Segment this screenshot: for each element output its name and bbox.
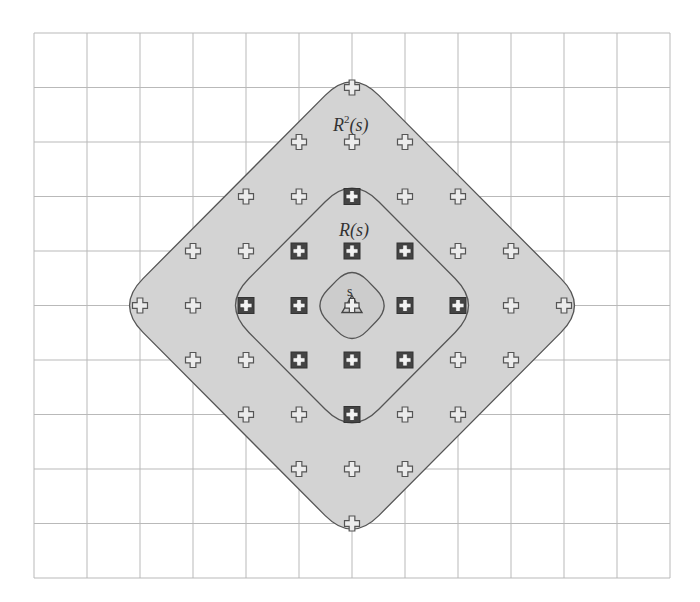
boxed-cross-marker-icon <box>291 352 307 368</box>
neighborhood-diagram: R2(s) R(s) s <box>0 0 700 602</box>
boxed-cross-marker-icon <box>344 352 360 368</box>
boxed-cross-marker-icon <box>291 243 307 259</box>
points <box>133 80 572 531</box>
boxed-cross-marker-icon <box>397 243 413 259</box>
boxed-cross-marker-icon <box>344 189 360 205</box>
label-s: s <box>347 284 352 299</box>
label-r2: R2(s) <box>332 113 369 136</box>
boxed-cross-marker-icon <box>397 352 413 368</box>
boxed-cross-marker-icon <box>344 243 360 259</box>
boxed-cross-marker-icon <box>344 407 360 423</box>
boxed-cross-marker-icon <box>397 298 413 314</box>
boxed-cross-marker-icon <box>291 298 307 314</box>
label-r1: R(s) <box>338 220 369 241</box>
boxed-cross-marker-icon <box>238 298 254 314</box>
boxed-cross-marker-icon <box>450 298 466 314</box>
